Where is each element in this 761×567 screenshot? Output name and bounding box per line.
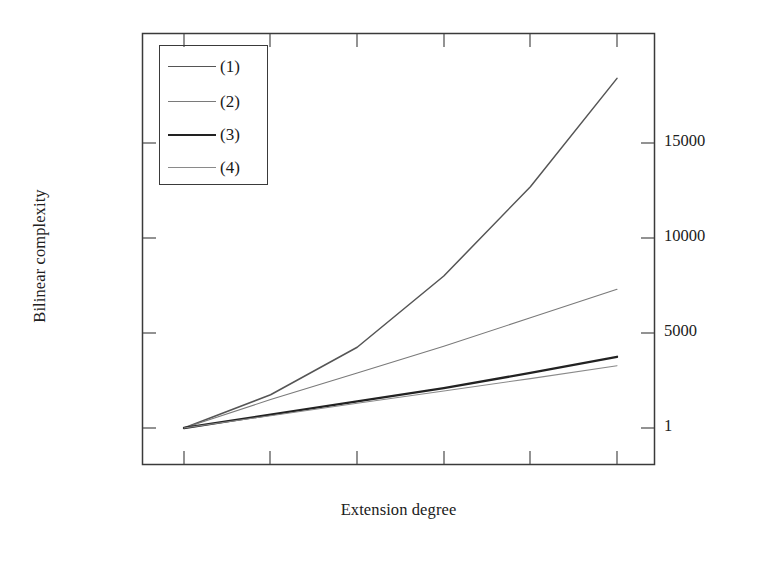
legend: (1) (2) (3) (4) [159, 45, 268, 185]
plot-area [0, 0, 761, 567]
legend-line-icon-1 [166, 66, 218, 67]
legend-line-icon-3 [166, 134, 218, 136]
y-tick-label-10000: 10000 [664, 226, 705, 246]
series-line-3 [184, 357, 617, 428]
series-line-2 [184, 289, 617, 428]
legend-line-icon-2 [166, 101, 218, 102]
y-axis-ticks-right [641, 143, 654, 428]
legend-entry-3: (3) [160, 117, 269, 152]
legend-label-4: (4) [220, 159, 240, 176]
bilinear-complexity-chart: Bilinear complexity Extension degree [0, 0, 761, 567]
legend-label-3: (3) [220, 126, 240, 143]
y-tick-label-1: 1 [664, 416, 672, 436]
legend-label-2: (2) [220, 93, 240, 110]
legend-label-1: (1) [220, 58, 240, 75]
y-axis-title: Bilinear complexity [30, 146, 50, 366]
x-axis-title: Extension degree [142, 500, 655, 520]
legend-line-icon-4 [166, 167, 218, 168]
x-axis-ticks-bottom [184, 451, 617, 464]
legend-entry-4: (4) [160, 150, 269, 185]
y-axis-ticks-left [143, 143, 156, 428]
series-line-4 [184, 366, 617, 428]
y-tick-label-15000: 15000 [664, 131, 705, 151]
legend-entry-1: (1) [160, 49, 269, 84]
y-tick-label-5000: 5000 [664, 321, 697, 341]
legend-entry-2: (2) [160, 84, 269, 119]
